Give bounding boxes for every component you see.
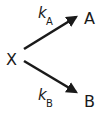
arrow-to-b [24, 61, 76, 92]
ka-subscript: A [46, 16, 53, 27]
rate-constant-ka: k A [38, 4, 53, 27]
parallel-reaction-diagram: X A B k A k B [0, 0, 108, 117]
rate-constant-kb: k B [38, 86, 53, 109]
product-b-label: B [84, 92, 95, 111]
reactant-x-label: X [6, 50, 17, 69]
product-a-label: A [84, 9, 95, 28]
kb-subscript: B [46, 98, 53, 109]
